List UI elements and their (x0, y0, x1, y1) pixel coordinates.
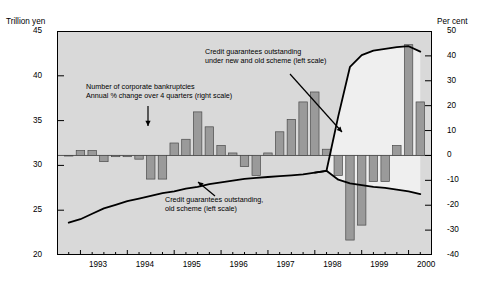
annotation-old-scheme: Credit guarantees outstanding, old schem… (165, 196, 263, 213)
x-tick-label: 1999 (363, 260, 395, 269)
annotation-new-and-old-scheme: Credit guarantees outstanding under new … (205, 48, 326, 65)
bar (299, 102, 307, 156)
bar (240, 155, 248, 166)
bar (100, 155, 108, 161)
right-tick-label: 50 (447, 26, 456, 35)
bar (334, 155, 342, 175)
right-tick-label: -10 (447, 175, 459, 184)
annotation-bankruptcies: Number of corporate bankruptcies Annual … (86, 83, 232, 100)
bar (193, 112, 201, 156)
right-tick-label: 30 (447, 76, 456, 85)
right-tick-label: -40 (447, 250, 459, 259)
left-tick-label: 25 (20, 205, 42, 214)
bar (76, 150, 84, 155)
left-tick-label: 40 (20, 71, 42, 80)
bar (111, 155, 119, 156)
bar (369, 155, 377, 181)
bar (147, 155, 155, 179)
bar (357, 155, 365, 225)
x-tick-label: 1994 (129, 260, 161, 269)
bar (264, 153, 272, 155)
bar (88, 150, 96, 155)
right-axis-title: Per cent (437, 17, 468, 26)
bar (404, 45, 412, 156)
bar (229, 153, 237, 155)
right-tick-label: 10 (447, 126, 456, 135)
bar (393, 145, 401, 155)
bar (275, 132, 283, 156)
right-tick-label: 40 (447, 51, 456, 60)
bar (416, 102, 424, 156)
left-axis-title: Trillion yen (6, 17, 45, 26)
bar (158, 155, 166, 179)
x-tick-label: 1997 (270, 260, 302, 269)
bar (346, 155, 354, 240)
bar (217, 145, 225, 155)
bar (65, 155, 73, 156)
right-tick-label: 0 (447, 150, 452, 159)
bar (205, 127, 213, 156)
chart-figure: Trillion yen Per cent 454035302520 50403… (0, 0, 485, 292)
right-tick-label: 20 (447, 101, 456, 110)
left-tick-label: 35 (20, 116, 42, 125)
bar (123, 155, 131, 156)
bar (381, 155, 389, 181)
bar (170, 143, 178, 155)
right-tick-label: -20 (447, 200, 459, 209)
x-tick-label: 1993 (82, 260, 114, 269)
bar (252, 155, 260, 175)
x-tick-label: 1995 (176, 260, 208, 269)
x-tick-label: 1996 (223, 260, 255, 269)
left-tick-label: 30 (20, 160, 42, 169)
left-tick-label: 20 (20, 250, 42, 259)
right-tick-label: -30 (447, 225, 459, 234)
left-tick-label: 45 (20, 26, 42, 35)
bar (287, 119, 295, 155)
x-tick-label: 2000 (410, 260, 442, 269)
x-tick-label: 1998 (316, 260, 348, 269)
bar (135, 155, 143, 159)
bar (182, 139, 190, 155)
